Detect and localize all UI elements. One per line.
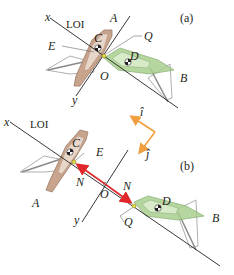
label-B-a: B [180,71,188,85]
contact-point-e-b [72,160,76,164]
panel-label-a: (a) [180,11,193,25]
panel-a: x LOI A (a) C Q E D O B y [44,10,193,108]
j-hat-label: ĵ [144,147,150,161]
label-E-a: E [47,39,56,53]
label-C-b: C [72,136,81,150]
loi-label-a: LOI [66,18,85,30]
unit-vectors: î ĵ [132,105,155,161]
panel-b: x LOI C E (b) N N O A D B y Q [3,115,220,266]
label-D-b: D [161,194,171,208]
label-Q-b: Q [124,215,133,229]
y-axis-label-b: y [73,213,80,227]
y-axis-label-a: y [71,93,78,107]
label-O-a: O [100,69,109,83]
panel-label-b: (b) [180,159,194,173]
collision-diagram: x LOI A (a) C Q E D O B y î ĵ [0,0,234,275]
x-axis-label-b: x [3,115,10,129]
force-label-left: N [75,175,85,189]
contact-point-q-b [132,204,136,208]
i-hat-label: î [140,105,144,119]
force-label-right: N [122,179,132,193]
label-E-b: E [95,145,104,159]
y-axis-line-b [82,150,128,222]
label-A-b: A [31,196,40,210]
loi-line-b [10,122,220,266]
i-hat-arrow [132,117,155,132]
label-Q-a: Q [144,29,153,43]
label-C-a: C [94,31,103,45]
label-O-b: O [100,187,109,201]
label-A-a: A [109,11,118,25]
boat-b-panel-a [104,48,174,102]
x-axis-label-a: x [44,10,51,24]
label-D-a: D [129,49,139,63]
contact-point-a [102,54,106,58]
label-B-b: B [212,211,220,225]
loi-label-b: LOI [30,118,49,130]
